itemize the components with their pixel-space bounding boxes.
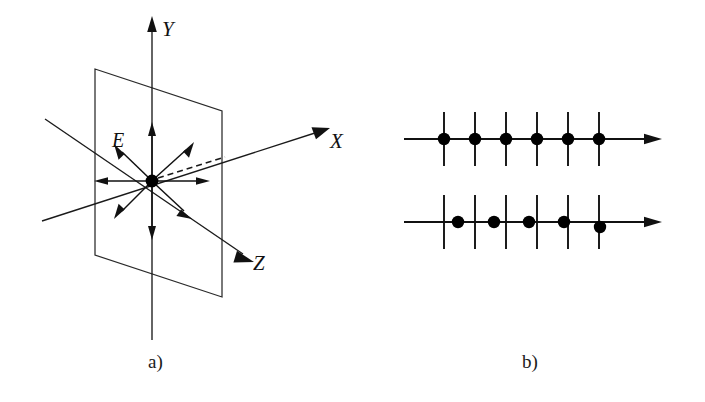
e-field-arrow-down-left	[122, 184, 149, 211]
panel-a: Y X Z	[42, 16, 344, 373]
wave-node-dot	[562, 133, 574, 145]
wave-node-dot	[500, 133, 512, 145]
axis-line-z	[45, 119, 243, 254]
origin-point	[146, 175, 159, 188]
wave-node-dot	[594, 221, 606, 233]
e-field-arrowhead-right	[196, 177, 210, 185]
e-field-arrowhead-up-right	[183, 142, 194, 158]
wave-axis-arrowhead-bottom	[644, 217, 662, 227]
e-field-arrowhead-down	[148, 226, 156, 240]
wave-node-dot	[488, 216, 500, 228]
wave-node-dot	[593, 133, 605, 145]
figure-canvas: Y X Z	[0, 0, 705, 402]
wave-node-dot	[452, 216, 464, 228]
axis-label-y: Y	[162, 17, 176, 41]
figure-root: Y X Z	[0, 0, 705, 402]
wave-node-dot	[523, 216, 535, 228]
e-field-arrowhead-down-left	[114, 204, 125, 219]
axis-label-z: Z	[253, 251, 265, 275]
axis-arrowhead-x	[312, 127, 331, 139]
wave-row-drifting-phase	[404, 195, 662, 249]
dashed-propagation-ray	[158, 157, 225, 178]
wave-node-dot	[438, 133, 450, 145]
panel-a-caption: a)	[148, 351, 163, 373]
axis-arrowhead-z	[233, 251, 254, 263]
e-field-arrowhead-up	[148, 122, 156, 136]
electric-field-label: E	[111, 129, 124, 151]
panel-b: b)	[404, 112, 662, 373]
axis-arrowhead-y	[147, 16, 157, 32]
wave-node-dot	[469, 133, 481, 145]
e-field-arrowhead-left	[94, 177, 108, 185]
axis-label-x: X	[329, 129, 344, 153]
wave-row-in-phase	[404, 112, 662, 166]
wave-node-dot	[558, 216, 570, 228]
wave-axis-arrowhead-top	[644, 134, 662, 144]
wave-node-dot	[531, 133, 543, 145]
panel-b-caption: b)	[522, 351, 538, 373]
